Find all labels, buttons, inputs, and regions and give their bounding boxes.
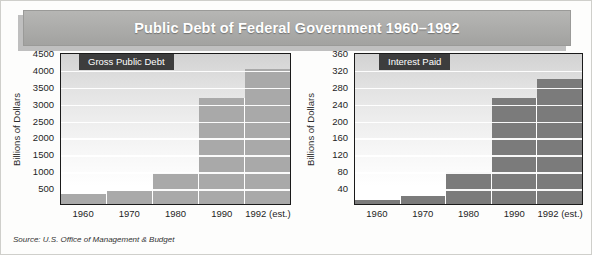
y-axis-ticks-right: 4080120160200240280320360 — [317, 53, 351, 205]
charts-row: Billions of Dollars 50010001500200025003… — [1, 53, 592, 228]
gridline — [355, 138, 582, 140]
y-axis-tick: 1000 — [33, 166, 54, 177]
title-banner-face: Public Debt of Federal Government 1960–1… — [23, 10, 571, 46]
y-axis-tick: 2500 — [33, 115, 54, 126]
gridline — [355, 155, 582, 157]
bar — [401, 196, 447, 204]
x-axis-tick: 1992 (est.) — [245, 208, 291, 222]
x-axis-tick: 1980 — [446, 208, 492, 222]
y-axis-tick: 3000 — [33, 98, 54, 109]
y-axis-tick: 1500 — [33, 149, 54, 160]
y-axis-ticks-left: 50010001500200025003000350040004500 — [23, 53, 57, 205]
y-axis-tick: 2000 — [33, 132, 54, 143]
title-banner: Public Debt of Federal Government 1960–1… — [23, 10, 571, 46]
y-axis-tick: 160 — [332, 132, 348, 143]
bar — [199, 98, 245, 204]
chart-panel-interest-paid: Billions of Dollars 40801201602002402803… — [301, 53, 587, 228]
page-title: Public Debt of Federal Government 1960–1… — [134, 20, 460, 36]
y-axis-tick: 4000 — [33, 64, 54, 75]
bar — [107, 191, 153, 204]
gridline — [355, 122, 582, 124]
plot-area-right — [354, 53, 583, 205]
gridline — [355, 71, 582, 73]
y-axis-label-right: Billions of Dollars — [303, 53, 317, 205]
x-axis-tick: 1980 — [152, 208, 198, 222]
x-axis-tick: 1970 — [106, 208, 152, 222]
chart-title-badge-left: Gross Public Debt — [79, 54, 174, 70]
figure-container: Public Debt of Federal Government 1960–1… — [0, 0, 592, 255]
bar-series-right — [355, 54, 582, 204]
y-axis-label-left: Billions of Dollars — [9, 53, 23, 205]
y-axis-label-left-text: Billions of Dollars — [11, 93, 22, 166]
bar — [537, 79, 582, 204]
y-axis-tick: 240 — [332, 98, 348, 109]
x-axis-tick: 1990 — [199, 208, 245, 222]
x-axis-tick: 1960 — [60, 208, 106, 222]
y-axis-tick: 120 — [332, 149, 348, 160]
y-axis-tick: 360 — [332, 48, 348, 59]
gridline — [61, 122, 290, 124]
y-axis-label-right-text: Billions of Dollars — [305, 93, 316, 166]
gridline — [61, 172, 290, 174]
gridline — [61, 155, 290, 157]
y-axis-tick: 500 — [38, 183, 54, 194]
x-axis-tick: 1960 — [354, 208, 400, 222]
gridline — [355, 88, 582, 90]
y-axis-tick: 40 — [337, 183, 348, 194]
y-axis-tick: 200 — [332, 115, 348, 126]
y-axis-tick: 80 — [337, 166, 348, 177]
plot-area-left — [60, 53, 291, 205]
gridline — [61, 105, 290, 107]
x-axis-tick: 1992 (est.) — [537, 208, 583, 222]
gridline — [61, 189, 290, 191]
y-axis-tick: 280 — [332, 81, 348, 92]
gridline — [355, 105, 582, 107]
gridline — [61, 138, 290, 140]
chart-title-badge-right: Interest Paid — [379, 54, 450, 70]
y-axis-tick: 3500 — [33, 81, 54, 92]
gridline — [355, 189, 582, 191]
x-axis-ticks-right: 19601970198019901992 (est.) — [354, 208, 583, 222]
bar — [355, 200, 401, 204]
bar-series-left — [61, 54, 290, 204]
gridline — [61, 71, 290, 73]
x-axis-tick: 1970 — [400, 208, 446, 222]
chart-panel-gross-public-debt: Billions of Dollars 50010001500200025003… — [7, 53, 295, 228]
gridline — [355, 172, 582, 174]
bar — [61, 194, 107, 204]
y-axis-tick: 320 — [332, 64, 348, 75]
x-axis-tick: 1990 — [491, 208, 537, 222]
source-note: Source: U.S. Office of Management & Budg… — [13, 235, 174, 244]
gridline — [61, 88, 290, 90]
y-axis-tick: 4500 — [33, 48, 54, 59]
x-axis-ticks-left: 19601970198019901992 (est.) — [60, 208, 291, 222]
